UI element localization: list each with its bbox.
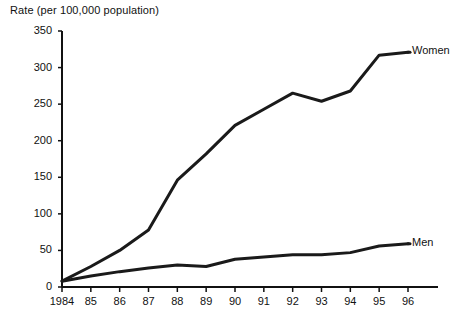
y-tick-label: 100 <box>18 207 52 219</box>
series-leader-lines <box>408 52 410 244</box>
y-tick-label: 50 <box>18 243 52 255</box>
y-tick-label: 350 <box>18 24 52 36</box>
chart-container: Rate (per 100,000 population) 0501001502… <box>0 0 466 316</box>
plot-area <box>0 0 466 316</box>
y-tick-label: 0 <box>18 280 52 292</box>
x-tick-label: 96 <box>388 295 428 307</box>
series-label-men: Men <box>412 236 433 248</box>
y-tick-label: 150 <box>18 170 52 182</box>
y-tick-label: 200 <box>18 134 52 146</box>
series-line-men <box>62 244 408 281</box>
y-tick-label: 250 <box>18 97 52 109</box>
series-label-women: Women <box>412 44 450 56</box>
y-tick-label: 300 <box>18 61 52 73</box>
data-series-group <box>62 52 408 281</box>
series-line-women <box>62 52 408 281</box>
